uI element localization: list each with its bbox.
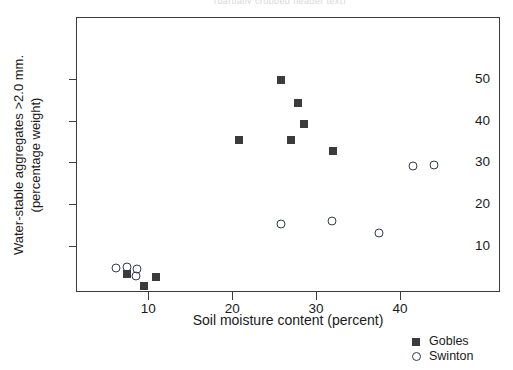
plot-area: 1020304050 10203040 [76, 17, 500, 292]
y-axis-title-line-2: (percentage weight) [27, 54, 44, 254]
y-tick-label: 10 [475, 239, 490, 253]
y-tick-label: 40 [475, 114, 490, 128]
filled-square-icon [408, 338, 424, 346]
x-tick-mark [148, 292, 149, 300]
data-point-swinton [375, 229, 384, 238]
data-point-swinton [276, 220, 285, 229]
y-tick-mark [69, 204, 76, 205]
scatter-plot-figure: (partially cropped header text) 10203040… [0, 0, 513, 370]
y-tick-mark [69, 79, 76, 80]
data-point-gobles [300, 120, 308, 128]
y-tick-mark [69, 246, 76, 247]
y-tick-mark [69, 162, 76, 163]
data-point-gobles [329, 147, 337, 155]
cropped-header-text: (partially cropped header text) [150, 0, 410, 4]
y-tick-label: 20 [475, 197, 490, 211]
y-axis-title: Water-stable aggregates >2.0 mm. (percen… [0, 17, 54, 292]
y-tick-label: 30 [475, 155, 490, 169]
legend-item-swinton: Swinton [408, 349, 473, 364]
data-point-gobles [152, 273, 160, 281]
y-axis-title-line-1: Water-stable aggregates >2.0 mm. [10, 54, 27, 254]
data-point-gobles [277, 76, 285, 84]
data-point-gobles [287, 136, 295, 144]
data-point-swinton [328, 217, 337, 226]
data-point-gobles [140, 282, 148, 290]
legend-label: Swinton [429, 349, 473, 364]
y-tick-mark [69, 121, 76, 122]
x-tick-mark [316, 292, 317, 300]
legend-label: Gobles [429, 334, 469, 349]
x-tick-mark [400, 292, 401, 300]
data-point-gobles [235, 136, 243, 144]
data-point-swinton [123, 262, 132, 271]
y-tick-label: 50 [475, 72, 490, 86]
data-point-swinton [112, 263, 121, 272]
data-point-gobles [294, 99, 302, 107]
open-circle-icon [408, 352, 424, 361]
x-tick-mark [232, 292, 233, 300]
x-axis-title: Soil moisture content (percent) [76, 312, 500, 328]
data-point-swinton [131, 271, 140, 280]
data-point-swinton [429, 161, 438, 170]
legend: GoblesSwinton [408, 334, 473, 364]
data-point-swinton [408, 161, 417, 170]
legend-item-gobles: Gobles [408, 334, 473, 349]
